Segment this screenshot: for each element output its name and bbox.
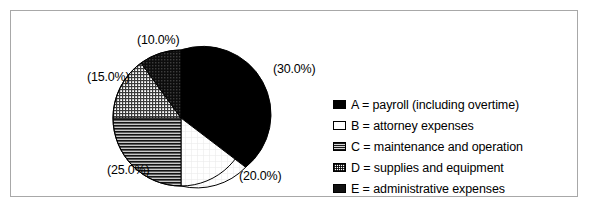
legend-swatch-a-icon (333, 100, 346, 109)
legend-label-e: E = administrative expenses (351, 182, 505, 196)
pie-label-c: (25.0%) (107, 163, 149, 177)
legend-swatch-b-icon (333, 121, 346, 130)
legend-swatch-d-icon (333, 163, 346, 172)
chart-frame: (10.0%) (15.0%) (30.0%) (25.0%) (20.0%) … (10, 10, 578, 197)
pie-label-d: (15.0%) (87, 70, 129, 84)
chart-legend: A = payroll (including overtime) B = att… (333, 94, 577, 199)
legend-item-e[interactable]: E = administrative expenses (333, 178, 577, 199)
pie-label-e: (10.0%) (137, 33, 179, 47)
pie-chart-svg (11, 11, 351, 196)
legend-label-c: C = maintenance and operation (351, 140, 523, 154)
legend-item-b[interactable]: B = attorney expenses (333, 115, 577, 136)
legend-item-d[interactable]: D = supplies and equipment (333, 157, 577, 178)
legend-label-b: B = attorney expenses (351, 119, 474, 133)
pie-label-a: (30.0%) (273, 62, 315, 76)
legend-label-d: D = supplies and equipment (351, 161, 504, 175)
legend-item-c[interactable]: C = maintenance and operation (333, 136, 577, 157)
legend-item-a[interactable]: A = payroll (including overtime) (333, 94, 577, 115)
pie-chart-area: (10.0%) (15.0%) (30.0%) (25.0%) (20.0%) (11, 11, 351, 196)
pie-label-b: (20.0%) (239, 169, 281, 183)
legend-swatch-c-icon (333, 142, 346, 151)
legend-swatch-e-icon (333, 184, 346, 193)
legend-label-a: A = payroll (including overtime) (351, 98, 519, 112)
